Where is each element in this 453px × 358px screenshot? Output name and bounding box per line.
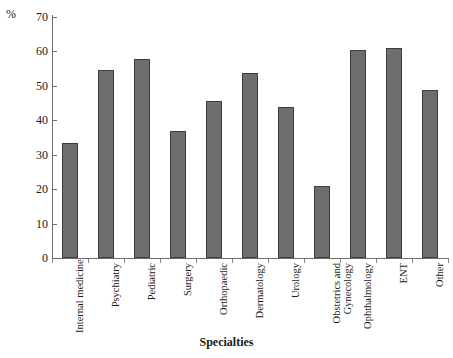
plot-area bbox=[52, 17, 448, 258]
x-axis-category-label: Urology bbox=[290, 263, 301, 333]
bar bbox=[170, 131, 186, 258]
bar bbox=[386, 48, 402, 258]
x-axis-category-label: Orthopaedic bbox=[218, 263, 229, 333]
bar bbox=[206, 101, 222, 258]
bar bbox=[422, 90, 438, 258]
bar bbox=[350, 50, 366, 258]
x-axis-category-label: Ophthalmology bbox=[362, 263, 373, 333]
y-axis-tick-label: 60 bbox=[2, 45, 48, 57]
x-axis-tick bbox=[412, 259, 413, 263]
x-axis-category-label: Psychiatry bbox=[110, 263, 121, 333]
x-axis-tick bbox=[88, 259, 89, 263]
x-axis-title: Specialties bbox=[0, 336, 453, 349]
y-axis-tick-label: 30 bbox=[2, 149, 48, 161]
x-axis-line bbox=[52, 258, 449, 259]
bar bbox=[242, 73, 258, 258]
x-axis-tick bbox=[232, 259, 233, 263]
y-axis-tick-label: 10 bbox=[2, 218, 48, 230]
x-axis-tick bbox=[196, 259, 197, 263]
bar bbox=[314, 186, 330, 258]
y-axis-tick-label: 50 bbox=[2, 80, 48, 92]
x-axis-category-label: ENT bbox=[398, 263, 409, 333]
bar bbox=[278, 107, 294, 258]
x-axis-tick bbox=[124, 259, 125, 263]
x-axis-category-label: Obstetrics andGynecology bbox=[331, 263, 353, 333]
y-axis-tick-label: 70 bbox=[2, 11, 48, 23]
bar bbox=[134, 59, 150, 258]
x-axis-category-label: Internal medicine bbox=[74, 263, 85, 333]
x-axis-category-label: Surgery bbox=[182, 263, 193, 333]
x-axis-category-label: Other bbox=[434, 263, 445, 333]
x-axis-category-label: Pediatric bbox=[146, 263, 157, 333]
x-axis-tick bbox=[160, 259, 161, 263]
bar bbox=[98, 70, 114, 258]
x-axis-tick bbox=[304, 259, 305, 263]
y-axis-tick-label: 40 bbox=[2, 114, 48, 126]
bar bbox=[62, 143, 78, 258]
y-axis-tick-label: 20 bbox=[2, 183, 48, 195]
x-axis-tick bbox=[268, 259, 269, 263]
x-axis-tick bbox=[376, 259, 377, 263]
x-axis-tick bbox=[448, 259, 449, 263]
y-axis-tick-label: 0 bbox=[2, 252, 48, 264]
bar-chart: % 010203040506070 Internal medicinePsych… bbox=[0, 0, 453, 358]
x-axis-tick bbox=[52, 259, 53, 263]
x-axis-category-label: Dermatology bbox=[254, 263, 265, 333]
